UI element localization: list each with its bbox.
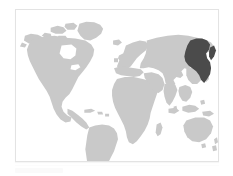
- world-map-svg[interactable]: [16, 10, 218, 161]
- card-bottom-rule: [15, 165, 219, 166]
- caption-placeholder-bar: [15, 168, 63, 173]
- world-map-locator-figure: [0, 0, 233, 176]
- map-card[interactable]: [15, 9, 219, 162]
